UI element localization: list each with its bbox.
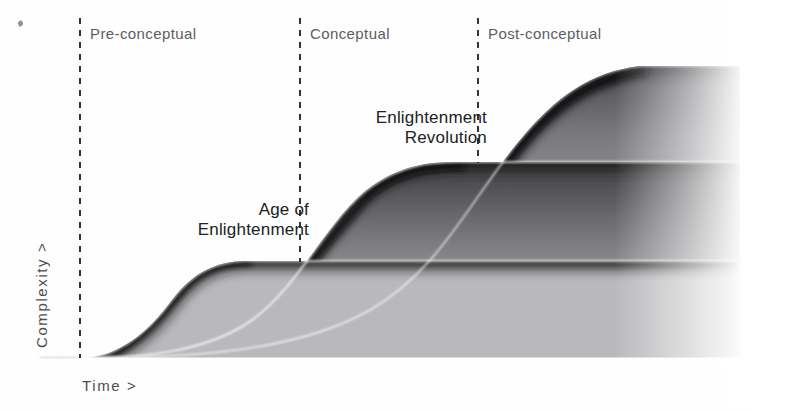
y-axis-label: Complexity >: [34, 242, 49, 348]
era-line-1: Age of: [198, 200, 309, 220]
era-line-2: Revolution: [376, 128, 487, 148]
phase-label-conceptual: Conceptual: [310, 26, 390, 41]
phase-label-pre-conceptual: Pre-conceptual: [90, 26, 197, 41]
phase-label-post-conceptual: Post-conceptual: [488, 26, 602, 41]
complexity-time-diagram: Pre-conceptual Conceptual Post-conceptua…: [0, 0, 787, 411]
era-label-age-of-enlightenment: Age of Enlightenment: [198, 200, 309, 239]
curves-layer: [0, 0, 787, 411]
era-line-2: Enlightenment: [198, 220, 309, 240]
era-line-1: Enlightenment: [376, 108, 487, 128]
x-axis-label: Time >: [82, 378, 137, 393]
right-edge-fade: [0, 0, 787, 411]
era-label-enlightenment-revolution: Enlightenment Revolution: [376, 108, 487, 147]
